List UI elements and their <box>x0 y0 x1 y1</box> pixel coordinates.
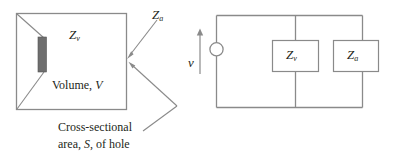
volume-label-symbol: V <box>95 78 102 92</box>
source-label-text: v <box>188 55 194 70</box>
hole-impedance-subscript: a <box>159 14 163 23</box>
volume-label-text: Volume, <box>52 78 95 92</box>
cavity-impedance-subscript: v <box>76 34 80 43</box>
hole-aperture <box>38 37 47 72</box>
source-label: v <box>188 56 194 69</box>
caption-line-1: Cross-sectional <box>58 121 132 133</box>
za-leader-arrow <box>127 20 157 59</box>
caption-line-1-text: Cross-sectional <box>58 120 132 134</box>
hole-impedance-label: Za <box>152 8 163 23</box>
figure-root: Zv Za Volume, V Cross-sectional area, S,… <box>0 0 401 159</box>
caption-leader-lines <box>129 62 178 131</box>
caption-line-2: area, S, of hole <box>58 138 130 150</box>
caption-line-2-suffix: , of hole <box>90 137 130 151</box>
cavity-impedance-label: Zv <box>69 28 80 43</box>
caption-line-2-prefix: area, <box>58 137 84 151</box>
circuit-zv-label: Zv <box>286 48 297 63</box>
voltage-source-symbol <box>210 43 223 56</box>
circuit-za-subscript: a <box>354 54 358 63</box>
circuit-za-label: Za <box>347 48 358 63</box>
source-direction-arrow <box>197 29 203 75</box>
volume-label: Volume, V <box>52 79 102 91</box>
circuit-zv-subscript: v <box>293 54 297 63</box>
